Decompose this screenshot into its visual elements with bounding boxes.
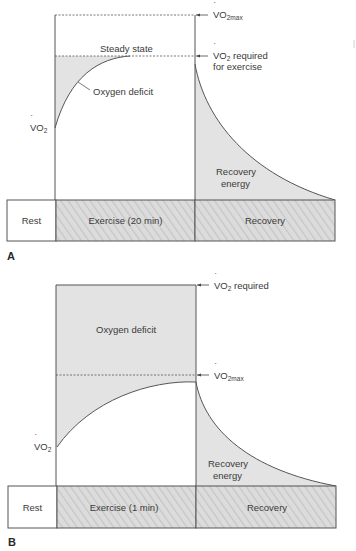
recovery-energy-label-2: energy xyxy=(221,178,250,189)
panel-letter-a: A xyxy=(7,250,15,262)
vo2max-label: VO2max xyxy=(213,9,243,21)
panel-letter-b: B xyxy=(8,536,16,548)
for-exercise-label: for exercise xyxy=(213,61,262,72)
arrow-icon xyxy=(196,14,208,17)
oxygen-deficit-diagram: VO2max ˙ VO2 required ˙ for exercise Ste… xyxy=(0,0,356,551)
timeline-exercise: Exercise (1 min) xyxy=(90,502,159,513)
timeline-recovery: Recovery xyxy=(245,215,285,226)
dot-accent: ˙ xyxy=(215,271,218,282)
timeline-bar-b: Rest Exercise (1 min) Recovery xyxy=(8,486,336,528)
timeline-recovery: Recovery xyxy=(247,502,287,513)
panel-a: VO2max ˙ VO2 required ˙ for exercise Ste… xyxy=(7,0,335,262)
recovery-energy-label-1: Recovery xyxy=(208,458,248,469)
recovery-energy-area xyxy=(195,64,335,200)
oxygen-deficit-label: Oxygen deficit xyxy=(93,86,154,97)
oxygen-deficit-area xyxy=(56,285,196,447)
vo2max-label: VO2max xyxy=(214,370,244,382)
dot-accent: ˙ xyxy=(215,361,218,372)
panel-b: VO2 required ˙ Oxygen deficit VO2max ˙ V… xyxy=(8,271,336,548)
dot-accent: ˙ xyxy=(31,113,34,124)
oxygen-deficit-label: Oxygen deficit xyxy=(96,324,157,335)
dot-accent: ˙ xyxy=(214,0,217,11)
dot-accent: ˙ xyxy=(35,432,38,443)
arrow-icon xyxy=(197,374,209,377)
oxygen-deficit-leader xyxy=(78,82,90,90)
recovery-energy-label-1: Recovery xyxy=(216,166,256,177)
dot-accent: ˙ xyxy=(214,41,217,52)
timeline-bar-a: Rest Exercise (20 min) Recovery xyxy=(7,200,335,241)
steady-state-label: Steady state xyxy=(100,43,153,54)
timeline-rest: Rest xyxy=(22,215,42,226)
timeline-exercise: Exercise (20 min) xyxy=(89,215,163,226)
recovery-energy-label-2: energy xyxy=(213,470,242,481)
arrow-icon xyxy=(196,55,208,58)
arrow-icon xyxy=(197,284,209,287)
timeline-rest: Rest xyxy=(23,502,43,513)
vo2-required-label: VO2 required xyxy=(214,280,269,292)
